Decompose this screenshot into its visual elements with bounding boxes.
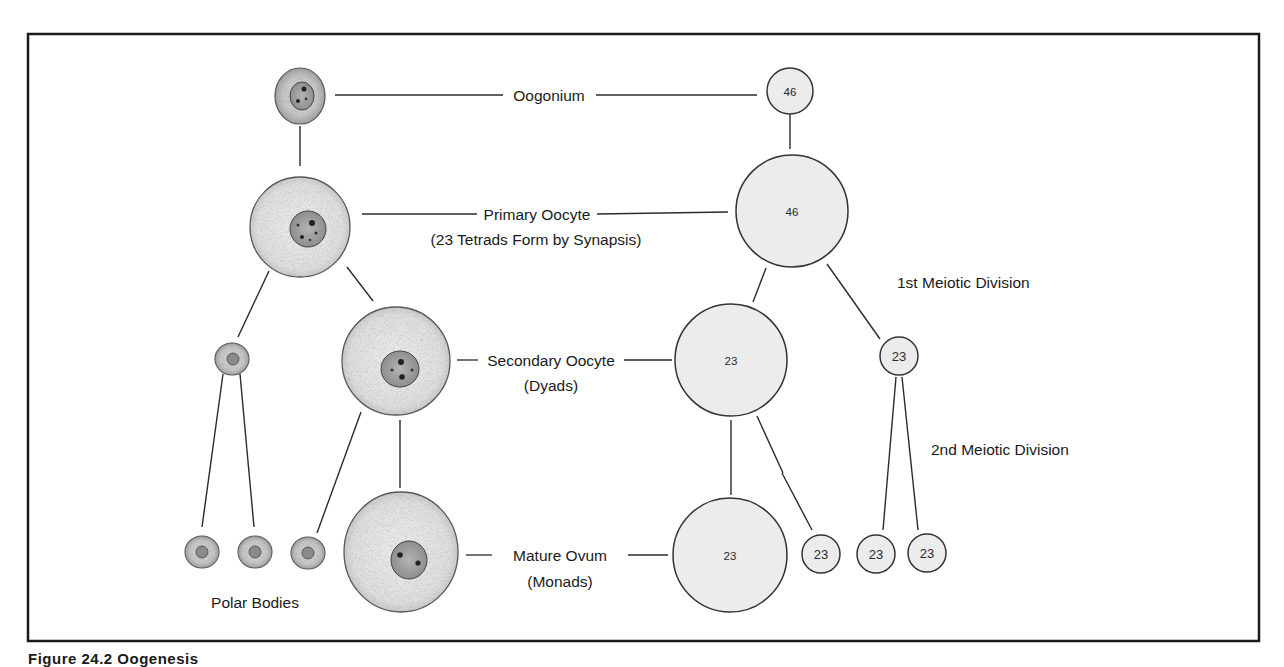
figure-caption: Figure 24.2 Oogenesis	[28, 650, 199, 667]
nucleus-icon	[391, 541, 427, 579]
oogonium-count-circle: 46	[767, 68, 813, 114]
primary-oocyte-cell	[250, 177, 350, 277]
polar-body-3-cell	[291, 537, 325, 569]
svg-text:23: 23	[724, 550, 737, 562]
mature-ovum-count-circle: 23	[673, 498, 787, 612]
svg-text:46: 46	[786, 206, 799, 218]
secondary-oocyte-count-circle: 23	[675, 304, 787, 416]
secondary-oocyte-sublabel: (Dyads)	[524, 377, 578, 394]
svg-text:46: 46	[784, 86, 797, 98]
secondary-oocyte-label: Secondary Oocyte	[487, 352, 615, 369]
nucleus-icon	[227, 353, 239, 365]
polar-bodies-label: Polar Bodies	[211, 594, 299, 611]
second-meiotic-division-label: 2nd Meiotic Division	[931, 441, 1069, 458]
polar-body-count-circle-1: 23	[802, 535, 840, 573]
polar-body-count-circle-2: 23	[857, 535, 895, 573]
secondary-oocyte-cell	[342, 307, 450, 415]
oogonium-cell	[275, 68, 325, 124]
polar-body-2-cell	[238, 536, 272, 568]
oogonium-label: Oogonium	[513, 87, 585, 104]
first-polar-body-cell	[215, 343, 249, 375]
nucleus-icon	[290, 82, 314, 110]
svg-text:23: 23	[814, 547, 828, 562]
nucleus-icon	[290, 211, 326, 247]
svg-text:23: 23	[920, 546, 934, 561]
primary-oocyte-sublabel: (23 Tetrads Form by Synapsis)	[431, 231, 642, 248]
polar-body-count-circle-3: 23	[908, 534, 946, 572]
mature-ovum-sublabel: (Monads)	[527, 573, 592, 590]
polar-body-1-cell	[185, 536, 219, 568]
svg-text:23: 23	[725, 355, 738, 367]
first-meiotic-division-label: 1st Meiotic Division	[897, 274, 1030, 291]
mature-ovum-label: Mature Ovum	[513, 547, 607, 564]
nucleus-icon	[381, 351, 419, 387]
primary-oocyte-label: Primary Oocyte	[484, 206, 591, 223]
nucleus-icon	[196, 546, 208, 558]
mature-ovum-cell	[344, 492, 458, 612]
svg-text:23: 23	[892, 349, 906, 364]
nucleus-icon	[249, 546, 261, 558]
first-polar-body-count-circle: 23	[880, 337, 918, 375]
nucleus-icon	[302, 547, 314, 559]
primary-oocyte-count-circle: 46	[736, 155, 848, 267]
svg-text:23: 23	[869, 547, 883, 562]
